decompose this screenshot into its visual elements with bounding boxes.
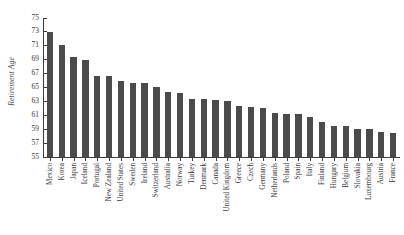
x-axis-tick-mark (109, 157, 110, 161)
x-axis-tick-label: Ireland (141, 163, 149, 183)
bar (272, 113, 278, 157)
y-axis-tick-label: 69 (32, 54, 40, 64)
x-axis-tick-label: Netherlands (271, 163, 279, 198)
x-axis-tick-mark (145, 157, 146, 161)
bar (212, 100, 218, 157)
bar (59, 45, 65, 157)
x-axis-tick-mark (192, 157, 193, 161)
plot-area: 5557596163656769717375 (44, 18, 399, 157)
bar (260, 108, 266, 157)
x-axis-tick-label: Australia (164, 163, 172, 189)
bar (118, 81, 124, 157)
x-axis-tick-label: Korea (58, 163, 66, 181)
bar (366, 129, 372, 157)
bar (165, 92, 171, 157)
y-axis-title-text: Retirement Age (7, 57, 16, 106)
x-axis-tick-mark (121, 157, 122, 161)
y-axis-tick-label: 57 (32, 138, 40, 148)
x-axis-tick-label: Japan (70, 163, 78, 179)
x-axis-tick-label: Slovakia (354, 163, 362, 188)
x-axis-tick-mark (322, 157, 323, 161)
bar (378, 132, 384, 157)
x-axis-tick-label: Czech (247, 163, 255, 181)
y-axis-tick-label: 55 (32, 152, 40, 162)
x-axis-tick-label: Iceland (81, 163, 89, 184)
x-axis-tick-mark (204, 157, 205, 161)
x-axis-ticks-and-labels: MexicoKoreaJapanIcelandPortugalNew Zeala… (44, 157, 399, 235)
x-axis-tick-label: Norway (176, 163, 184, 186)
bar (343, 126, 349, 157)
x-axis-tick-label: United Kingdom (223, 163, 231, 212)
x-axis-tick-mark (334, 157, 335, 161)
bar (331, 126, 337, 157)
x-axis-tick-label: Mexico (46, 163, 54, 185)
x-axis-tick-mark (133, 157, 134, 161)
bar (70, 57, 76, 157)
x-axis-tick-label: United States (117, 163, 125, 202)
bar (354, 129, 360, 157)
y-axis-tick-label: 61 (32, 110, 40, 120)
x-axis-tick-label: Hungary (330, 163, 338, 188)
bar (248, 107, 254, 157)
x-axis-tick-mark (381, 157, 382, 161)
bar (319, 122, 325, 157)
y-axis-title: Retirement Age (0, 0, 22, 162)
x-axis-tick-label: Italy (306, 163, 314, 176)
bar (201, 99, 207, 157)
x-axis-tick-mark (251, 157, 252, 161)
x-axis-tick-label: Luxembourg (365, 163, 373, 200)
y-axis-tick-label: 65 (32, 82, 40, 92)
x-axis-tick-mark (239, 157, 240, 161)
bar (295, 114, 301, 157)
bar (177, 93, 183, 157)
x-axis-tick-mark (180, 157, 181, 161)
x-axis-tick-mark (263, 157, 264, 161)
x-axis-tick-mark (216, 157, 217, 161)
x-axis-tick-label: Greece (235, 163, 243, 183)
x-axis-tick-mark (50, 157, 51, 161)
x-axis-tick-mark (346, 157, 347, 161)
x-axis-tick-mark (358, 157, 359, 161)
x-axis-tick-label: Turkey (188, 163, 196, 184)
x-axis-tick-mark (393, 157, 394, 161)
bar (141, 83, 147, 157)
x-axis-tick-mark (369, 157, 370, 161)
x-axis-tick-mark (310, 157, 311, 161)
bar (189, 99, 195, 157)
x-axis-tick-mark (298, 157, 299, 161)
retirement-age-bar-chart: Retirement Age 5557596163656769717375 Me… (0, 0, 404, 235)
x-axis-tick-mark (85, 157, 86, 161)
x-axis-tick-label: New Zealand (105, 163, 113, 202)
bar (307, 117, 313, 157)
y-axis-tick-label: 59 (32, 124, 40, 134)
x-axis-tick-label: Poland (283, 163, 291, 183)
bar (224, 101, 230, 157)
y-axis-tick-label: 71 (32, 40, 40, 50)
bar (236, 106, 242, 157)
x-axis-tick-mark (287, 157, 288, 161)
x-axis-tick-label: Switzerland (152, 163, 160, 197)
x-axis-tick-mark (156, 157, 157, 161)
x-axis-tick-label: Belgium (342, 163, 350, 188)
x-axis-tick-mark (74, 157, 75, 161)
y-axis-tick-label: 63 (32, 96, 40, 106)
x-axis-tick-label: Sweden (129, 163, 137, 186)
bar-series (44, 18, 399, 157)
x-axis-tick-label: Portugal (93, 163, 101, 187)
bar (283, 114, 289, 157)
x-axis-tick-mark (168, 157, 169, 161)
x-axis-tick-label: Canada (212, 163, 220, 185)
bar (82, 60, 88, 157)
bar (47, 32, 53, 157)
bar (106, 76, 112, 157)
x-axis-tick-mark (227, 157, 228, 161)
y-axis-tick-label: 73 (32, 26, 40, 36)
x-axis-tick-label: Denmark (200, 163, 208, 190)
x-axis-tick-label: Finland (318, 163, 326, 185)
x-axis-tick-mark (97, 157, 98, 161)
x-axis-tick-label: France (389, 163, 397, 183)
x-axis-tick-mark (62, 157, 63, 161)
y-axis-tick-label: 75 (32, 13, 40, 23)
bar (153, 87, 159, 157)
y-axis-tick-label: 67 (32, 68, 40, 78)
